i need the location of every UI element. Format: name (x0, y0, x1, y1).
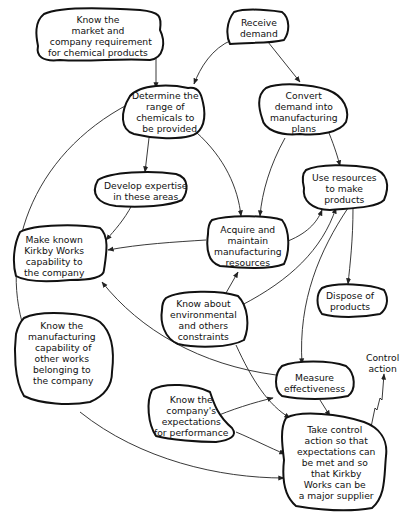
node-take-control: Take control action so that expectations… (294, 424, 375, 501)
edge-develop-expertise-to-make-known (106, 205, 132, 240)
node-convert-demand: Convert demand into manufacturing plans (270, 90, 338, 134)
edge-receive-demand-to-determine-range (194, 40, 232, 84)
edge-acquire-maintain-to-make-known (108, 240, 206, 250)
node-know-environmental: Know about environmental and others cons… (170, 298, 237, 342)
edge-know-expectations-to-take-control (236, 432, 285, 454)
node-dispose-products: Dispose of products (326, 290, 374, 312)
node-develop-expertise: Develop expertise in these areas (104, 180, 188, 202)
edge-determine-range-to-develop-expertise (145, 138, 149, 172)
node-know-market: Know the market and company requirement … (44, 14, 152, 58)
node-acquire-maintain: Acquire and maintain manufacturing resou… (214, 224, 282, 268)
edge-convert-demand-to-use-resources (329, 133, 340, 166)
node-receive-demand: Receive demand (240, 17, 278, 39)
edge-receive-demand-to-convert-demand (268, 42, 300, 82)
edge-acquire-maintain-to-use-resources (288, 210, 322, 241)
node-know-expectations: Know the company's expectations for perf… (154, 394, 228, 438)
node-determine-range: Determine the range of chemicals to be p… (132, 90, 199, 134)
control-action-label: Control action (366, 352, 399, 374)
edge-convert-demand-to-acquire-maintain (260, 138, 285, 216)
edge-determine-range-to-acquire-maintain (196, 132, 241, 216)
edge-use-resources-to-dispose-products (348, 208, 353, 284)
node-measure-effectiveness: Measure effectiveness (284, 372, 345, 394)
node-use-resources: Use resources to make products (312, 172, 377, 205)
node-know-capability: Know the manufacturing capability of oth… (28, 320, 96, 386)
node-make-known: Make known Kirkby Works capability to th… (24, 234, 84, 278)
